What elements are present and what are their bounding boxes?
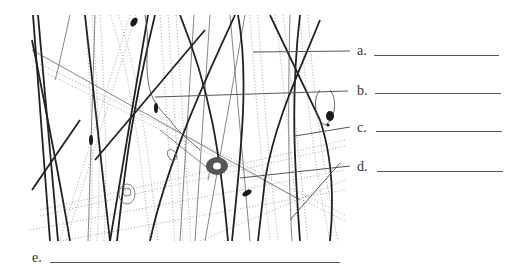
label-c: c.: [357, 121, 367, 135]
answer-blank-d[interactable]: [377, 171, 503, 172]
label-d: d.: [357, 160, 368, 174]
thin-fibers: [32, 15, 300, 241]
label-e: e.: [32, 251, 42, 264]
answer-blank-b[interactable]: [375, 93, 501, 94]
label-a: a.: [357, 44, 367, 58]
leader-line-a: [253, 51, 350, 52]
answer-blank-a[interactable]: [374, 55, 499, 56]
answer-blank-c[interactable]: [376, 131, 502, 132]
leader-line-b: [155, 91, 348, 97]
answer-blank-e[interactable]: [50, 262, 340, 263]
tissue-illustration: [0, 0, 525, 264]
label-b: b.: [357, 84, 368, 98]
granular-cell: [206, 157, 228, 175]
